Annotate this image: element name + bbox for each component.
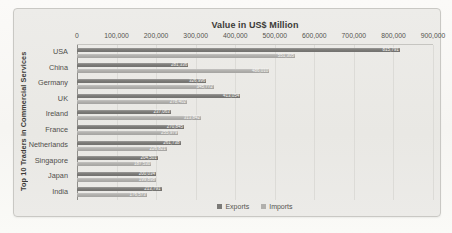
- legend-label-exports: Exports: [225, 203, 249, 210]
- data-label: 270,845: [167, 125, 183, 130]
- data-label: 326,996: [189, 79, 205, 84]
- data-label: 213,791: [144, 187, 160, 192]
- x-axis-tick-label: 400,000: [223, 32, 248, 39]
- imports-bar-singapore: 187,530: [77, 162, 151, 166]
- category-label-uk: UK: [14, 91, 73, 107]
- exports-bar-india: 213,791: [77, 187, 162, 191]
- bar-group-ireland: 237,063313,842: [77, 107, 433, 123]
- legend-swatch-exports: [217, 204, 222, 209]
- bar-group-japan: 200,034199,898: [77, 169, 433, 185]
- category-label-india: India: [14, 184, 73, 200]
- data-label: 237,063: [153, 110, 169, 115]
- data-label: 199,898: [139, 178, 155, 183]
- gridline: [433, 45, 434, 200]
- data-label: 486,010: [252, 69, 268, 74]
- imports-bar-usa: 551,305: [77, 54, 295, 58]
- category-label-singapore: Singapore: [14, 153, 73, 169]
- category-label-japan: Japan: [14, 168, 73, 184]
- imports-bar-india: 176,573: [77, 193, 147, 197]
- category-label-ireland: Ireland: [14, 106, 73, 122]
- bar-group-china: 281,336486,010: [77, 61, 433, 77]
- imports-bar-uk: 278,402: [77, 100, 187, 104]
- x-axis-tick-label: 200,000: [144, 32, 169, 39]
- imports-bar-netherlands: 226,821: [77, 147, 167, 151]
- chart-panel: Value in US$ Million 0100,000200,000300,…: [13, 8, 441, 217]
- x-axis-tick-label: 300,000: [183, 32, 208, 39]
- data-label: 261,738: [163, 141, 179, 146]
- data-label: 200,034: [139, 172, 155, 177]
- data-label: 313,842: [184, 116, 200, 121]
- x-axis-tick-label: 500,000: [262, 32, 287, 39]
- imports-bar-france: 255,979: [77, 131, 178, 135]
- category-label-france: France: [14, 122, 73, 138]
- x-axis-tick-label: 700,000: [342, 32, 367, 39]
- exports-bar-ireland: 237,063: [77, 110, 171, 114]
- plot-area: 815,791551,305281,336486,010326,996345,7…: [77, 44, 433, 200]
- exports-bar-netherlands: 261,738: [77, 141, 181, 145]
- imports-bar-japan: 199,898: [77, 178, 156, 182]
- x-axis-tick-label: 0: [75, 32, 79, 39]
- bar-group-singapore: 204,501187,530: [77, 154, 433, 170]
- data-label: 551,305: [278, 54, 294, 59]
- bar-group-netherlands: 261,738226,821: [77, 138, 433, 154]
- x-axis-tick-label: 800,000: [381, 32, 406, 39]
- data-label: 278,402: [170, 100, 186, 105]
- imports-bar-germany: 345,772: [77, 85, 214, 89]
- bar-group-india: 213,791176,573: [77, 185, 433, 201]
- exports-bar-usa: 815,791: [77, 48, 400, 52]
- bar-group-uk: 413,054278,402: [77, 92, 433, 108]
- imports-bar-ireland: 313,842: [77, 116, 201, 120]
- bar-group-usa: 815,791551,305: [77, 45, 433, 61]
- legend-swatch-imports: [261, 204, 266, 209]
- data-label: 815,791: [382, 48, 398, 53]
- exports-bar-uk: 413,054: [77, 94, 240, 98]
- x-axis-tick-label: 900,000: [421, 32, 446, 39]
- category-label-netherlands: Netherlands: [14, 137, 73, 153]
- legend: ExportsImports: [77, 201, 433, 212]
- x-axis-ticks: 0100,000200,000300,000400,000500,000600,…: [77, 32, 433, 41]
- legend-label-imports: Imports: [269, 203, 292, 210]
- exports-bar-japan: 200,034: [77, 172, 156, 176]
- category-labels: USAChinaGermanyUKIrelandFranceNetherland…: [14, 44, 73, 199]
- chart-title: Value in US$ Million: [77, 20, 433, 30]
- photographed-page: Value in US$ Million 0100,000200,000300,…: [0, 0, 452, 233]
- data-label: 413,054: [223, 94, 239, 99]
- legend-item-exports: Exports: [217, 203, 249, 210]
- category-label-germany: Germany: [14, 75, 73, 91]
- category-label-china: China: [14, 60, 73, 76]
- imports-bar-china: 486,010: [77, 69, 269, 73]
- bar-group-germany: 326,996345,772: [77, 76, 433, 92]
- data-label: 176,573: [130, 193, 146, 198]
- data-label: 255,979: [161, 131, 177, 136]
- legend-item-imports: Imports: [261, 203, 292, 210]
- x-axis-tick-label: 600,000: [302, 32, 327, 39]
- x-axis-tick-label: 100,000: [104, 32, 129, 39]
- exports-bar-china: 281,336: [77, 63, 188, 67]
- bar-group-france: 270,845255,979: [77, 123, 433, 139]
- data-label: 204,501: [141, 156, 157, 161]
- exports-bar-germany: 326,996: [77, 79, 206, 83]
- bar-rows: 815,791551,305281,336486,010326,996345,7…: [77, 45, 433, 200]
- data-label: 226,821: [149, 147, 165, 152]
- data-label: 281,336: [171, 63, 187, 68]
- data-label: 345,772: [196, 85, 212, 90]
- exports-bar-singapore: 204,501: [77, 156, 158, 160]
- exports-bar-france: 270,845: [77, 125, 184, 129]
- category-label-usa: USA: [14, 44, 73, 60]
- data-label: 187,530: [134, 162, 150, 167]
